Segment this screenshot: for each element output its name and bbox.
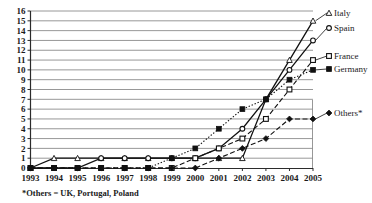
series-label-leader-spain [316, 28, 328, 40]
data-point-marker [169, 156, 174, 161]
data-point-marker [240, 107, 245, 112]
x-tick-label: 1994 [45, 173, 64, 183]
data-point-marker [327, 54, 332, 59]
y-tick-label: 4 [21, 124, 26, 134]
series-label-leader-others [316, 113, 328, 119]
x-tick-label: 2003 [257, 173, 276, 183]
series-label-leader-italy [316, 13, 328, 21]
chart-container: 012345678910111213141516 199319941995199… [0, 0, 372, 203]
gridlines-group [31, 11, 314, 158]
data-point-marker [240, 126, 245, 131]
series-others [28, 116, 316, 171]
x-tick-label: 1995 [69, 173, 88, 183]
x-tick-label: 2002 [233, 173, 252, 183]
series-label-spain: Spain [334, 23, 355, 33]
y-tick-label: 3 [21, 134, 26, 144]
data-point-marker [193, 156, 198, 161]
chart-footnote: *Others = UK, Portugal, Poland [22, 188, 139, 198]
series-label-germany: Germany [334, 64, 368, 74]
series-labels-group: ItalySpainFranceGermanyOthers* [316, 8, 368, 119]
y-tick-label: 0 [21, 163, 26, 173]
y-tick-label: 10 [17, 65, 27, 75]
data-point-marker [287, 67, 292, 72]
y-tick-label: 6 [21, 104, 26, 114]
data-point-marker [240, 136, 245, 141]
x-tick-label: 1993 [22, 173, 41, 183]
series-line [31, 60, 314, 168]
x-axis-labels-group: 1993199419951996199719981999200020012002… [22, 173, 323, 183]
y-tick-label: 2 [21, 144, 26, 154]
data-point-marker [327, 67, 332, 72]
x-tick-label: 2001 [210, 173, 229, 183]
series-label-france: France [334, 51, 359, 61]
data-point-marker [327, 26, 332, 31]
data-point-marker [193, 146, 198, 151]
line-chart: 012345678910111213141516 199319941995199… [0, 0, 372, 203]
series-label-others: Others* [334, 108, 363, 118]
data-point-marker [311, 67, 316, 72]
x-tick-label: 1996 [92, 173, 111, 183]
data-point-marker [122, 156, 127, 161]
y-tick-label: 11 [17, 55, 26, 65]
data-point-marker [287, 116, 293, 122]
series-france [28, 58, 315, 171]
series-label-leader-france [316, 56, 328, 60]
x-tick-label: 2000 [186, 173, 205, 183]
series-label-italy: Italy [334, 8, 351, 18]
data-point-marker [287, 77, 292, 82]
y-axis-labels-group: 012345678910111213141516 [17, 6, 27, 173]
x-tick-label: 1998 [139, 173, 158, 183]
x-tick-label: 2004 [280, 173, 299, 183]
data-point-marker [287, 87, 292, 92]
y-tick-label: 16 [17, 6, 27, 16]
x-tick-label: 2005 [304, 173, 323, 183]
y-tick-label: 13 [17, 36, 27, 46]
data-point-marker [146, 156, 151, 161]
data-point-marker [239, 145, 245, 151]
data-point-marker [326, 110, 332, 116]
series-spain [28, 38, 315, 170]
data-point-marker [326, 10, 332, 15]
data-point-marker [99, 156, 104, 161]
y-tick-label: 7 [21, 95, 26, 105]
data-point-marker [311, 38, 316, 43]
data-point-marker [216, 126, 221, 131]
x-tick-label: 1997 [116, 173, 135, 183]
x-tick-label: 1999 [163, 173, 182, 183]
data-point-marker [311, 58, 316, 63]
y-tick-label: 14 [17, 26, 27, 36]
y-tick-label: 8 [21, 85, 26, 95]
series-label-leader-germany [316, 69, 328, 70]
y-tick-label: 5 [21, 114, 26, 124]
data-point-marker [264, 97, 269, 102]
y-tick-label: 9 [21, 75, 26, 85]
y-tick-label: 15 [17, 16, 27, 26]
data-point-marker [192, 165, 198, 171]
y-tick-label: 1 [21, 153, 26, 163]
y-tick-label: 12 [17, 45, 27, 55]
data-point-marker [264, 117, 269, 122]
data-point-marker [310, 116, 316, 122]
data-point-marker [216, 146, 221, 151]
series-line [31, 40, 314, 168]
